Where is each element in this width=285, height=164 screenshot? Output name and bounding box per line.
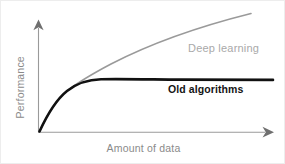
- y-axis-label: Performance: [15, 37, 26, 137]
- deep-learning-curve: [40, 14, 252, 132]
- x-axis-label: Amount of data: [1, 143, 285, 154]
- old-algorithms-series-label: Old algorithms: [168, 84, 244, 95]
- deep-learning-series-label: Deep learning: [188, 43, 259, 54]
- chart-container: Deep learning Old algorithms Amount of d…: [0, 0, 285, 164]
